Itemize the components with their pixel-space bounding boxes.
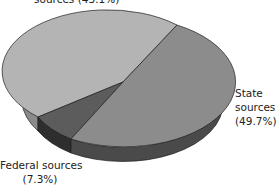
state-sources-label: State sources (49.7%) [235, 86, 277, 128]
state-label-line1: State [235, 86, 277, 100]
federal-label-line2: (7.3%) [0, 172, 80, 186]
federal-label-line1: Federal sources [0, 158, 80, 172]
state-label-line2: sources [235, 100, 277, 114]
local-sources-label: sources (43.1%) [34, 0, 119, 6]
local-label-line1: sources (43.1%) [34, 0, 119, 6]
state-label-line3: (49.7%) [235, 114, 277, 128]
federal-sources-label: Federal sources (7.3%) [0, 158, 80, 186]
